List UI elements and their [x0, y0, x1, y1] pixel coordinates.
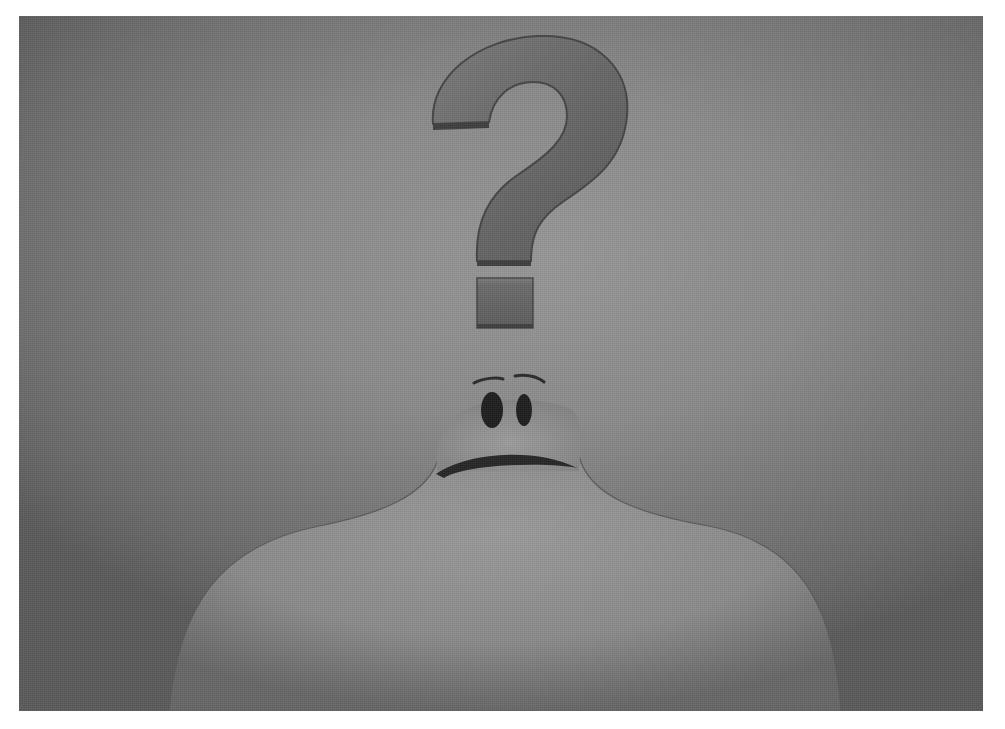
left-eyebrow — [474, 378, 503, 383]
illustration-photo: 3D-rendered grayscale illustration of a … — [19, 16, 983, 711]
right-eye — [516, 394, 532, 426]
right-eyebrow — [515, 375, 544, 382]
figure — [169, 375, 841, 711]
left-eye — [481, 392, 503, 428]
question-mark-icon — [433, 36, 628, 328]
scene — [19, 16, 983, 711]
